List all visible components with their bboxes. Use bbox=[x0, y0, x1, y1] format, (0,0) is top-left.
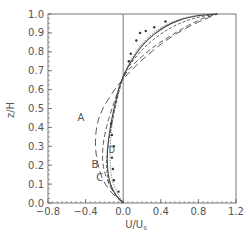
chart: −0.8−0.40.00.40.81.20.00.10.20.30.40.50.… bbox=[0, 0, 252, 241]
y-tick-label: 0.6 bbox=[28, 84, 44, 95]
plot-frame bbox=[48, 14, 236, 203]
series-d-line bbox=[110, 14, 217, 203]
y-axis-label: z/H bbox=[5, 102, 16, 118]
x-tick-label: 0.0 bbox=[115, 206, 131, 217]
data-marker bbox=[111, 156, 113, 158]
data-marker bbox=[128, 60, 130, 62]
data-marker bbox=[113, 179, 115, 181]
x-tick-label: 0.4 bbox=[153, 206, 169, 217]
y-tick-label: 0.8 bbox=[28, 46, 44, 57]
data-marker bbox=[153, 26, 155, 28]
y-tick-label: 0.1 bbox=[28, 179, 44, 190]
series-b-line bbox=[103, 14, 218, 203]
data-marker bbox=[164, 20, 166, 22]
data-marker bbox=[117, 190, 119, 192]
x-axis-label: U/Us bbox=[125, 219, 147, 232]
y-tick-label: 1.0 bbox=[28, 9, 44, 20]
data-marker bbox=[112, 168, 114, 170]
series-solid-line bbox=[107, 14, 217, 203]
series-label-b: B bbox=[92, 159, 99, 170]
y-tick-label: 0.0 bbox=[28, 198, 44, 209]
data-marker bbox=[145, 30, 147, 32]
y-tick-label: 0.2 bbox=[28, 160, 44, 171]
series-group bbox=[95, 14, 217, 203]
data-marker bbox=[111, 134, 113, 136]
data-marker bbox=[139, 32, 141, 34]
data-marker bbox=[130, 52, 132, 54]
series-labels: ABCD bbox=[77, 112, 115, 183]
x-tick-label: 1.2 bbox=[228, 206, 244, 217]
y-tick-label: 0.3 bbox=[28, 141, 44, 152]
data-marker bbox=[135, 39, 137, 41]
y-tick-label: 0.7 bbox=[28, 65, 44, 76]
data-marker bbox=[110, 122, 112, 124]
series-label-a: A bbox=[77, 112, 84, 123]
series-label-c: C bbox=[96, 172, 103, 183]
y-tick-label: 0.5 bbox=[28, 103, 44, 114]
series-label-d: D bbox=[109, 146, 115, 155]
y-tick-label: 0.4 bbox=[28, 122, 44, 133]
y-tick-label: 0.9 bbox=[28, 27, 44, 38]
x-tick-label: −0.4 bbox=[73, 206, 97, 217]
x-tick-label: 0.8 bbox=[190, 206, 206, 217]
